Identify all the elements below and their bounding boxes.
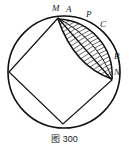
point-label-M: M [52,4,60,13]
figure-container: M A P C B N 图 300 [0,0,129,152]
inner-lens-region [50,14,120,90]
geometry-diagram [0,0,129,132]
point-label-B: B [114,52,120,61]
caption-number: 300 [63,134,78,144]
point-label-P: P [86,10,92,19]
point-label-C: C [100,20,106,29]
caption-prefix: 图 [51,134,60,144]
point-label-N: N [114,68,120,77]
figure-caption: 图 300 [0,134,129,145]
point-label-A: A [66,5,72,14]
